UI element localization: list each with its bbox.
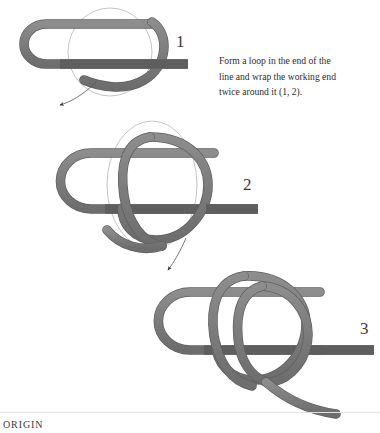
instruction-line-3: twice around it (1, 2). bbox=[219, 84, 371, 100]
step-number-3: 3 bbox=[360, 320, 369, 337]
origin-label: ORIGIN bbox=[3, 419, 43, 430]
knot-step-3-group bbox=[158, 276, 374, 414]
step-number-2: 2 bbox=[243, 176, 252, 193]
step-number-1: 1 bbox=[176, 33, 185, 50]
step-3-wrap-turn-2-inner-fill bbox=[238, 286, 266, 382]
step-2-loop-bight bbox=[60, 153, 214, 209]
knot-step-1-group bbox=[24, 8, 188, 105]
instruction-line-1: Form a loop in the end of the bbox=[219, 53, 371, 69]
instruction-text: Form a loop in the end of the line and w… bbox=[219, 53, 371, 100]
step-1-loop-bight bbox=[24, 24, 152, 64]
footer-divider bbox=[0, 412, 380, 413]
knot-step-2-group bbox=[60, 121, 258, 270]
step-1-loop-bight-fill bbox=[24, 24, 152, 64]
illustration-canvas: 1 2 3 Form a loop in the end of the line… bbox=[0, 0, 380, 433]
step-2-loop-bight-fill bbox=[60, 153, 214, 209]
instruction-line-2: line and wrap the working end bbox=[219, 69, 371, 85]
